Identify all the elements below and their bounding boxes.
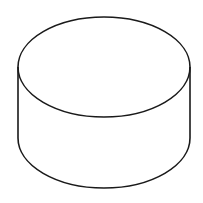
cylinder-top-face	[18, 17, 190, 117]
cylinder-diagram	[0, 0, 203, 203]
cylinder-body	[18, 67, 190, 188]
